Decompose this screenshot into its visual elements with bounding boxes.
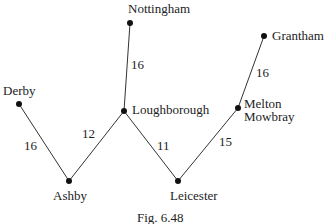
node-melton-mowbray <box>235 105 241 111</box>
node-derby <box>16 101 22 107</box>
weight-melton-grantham: 16 <box>256 65 270 80</box>
label-ashby: Ashby <box>53 188 87 203</box>
network-diagram: Nottingham Derby Loughborough Ashby Leic… <box>0 0 325 224</box>
label-loughborough: Loughborough <box>132 102 210 117</box>
label-grantham: Grantham <box>272 28 324 43</box>
label-leicester: Leicester <box>170 188 218 203</box>
edge-ashby-loughborough <box>69 111 124 181</box>
label-derby: Derby <box>3 83 36 98</box>
node-ashby <box>66 178 72 184</box>
weight-nottingham-loughborough: 16 <box>131 57 145 72</box>
figure-caption: Fig. 6.48 <box>137 210 184 224</box>
edge-nottingham-loughborough <box>124 23 130 111</box>
weight-loughborough-leicester: 11 <box>157 138 170 153</box>
node-nottingham <box>127 20 133 26</box>
weight-ashby-loughborough: 12 <box>82 126 95 141</box>
edge-loughborough-leicester <box>124 111 178 181</box>
label-mowbray: Mowbray <box>244 109 295 124</box>
weight-leicester-melton: 15 <box>219 134 232 149</box>
label-nottingham: Nottingham <box>128 1 190 16</box>
node-loughborough <box>121 108 127 114</box>
node-grantham <box>261 33 267 39</box>
weight-derby-ashby: 16 <box>24 138 38 153</box>
node-leicester <box>175 178 181 184</box>
